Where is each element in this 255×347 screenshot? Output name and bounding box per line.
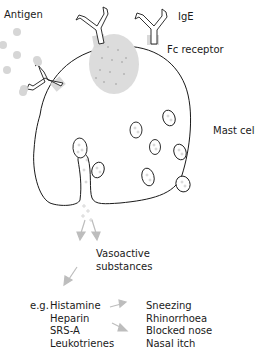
mediators-prefix: e.g.	[30, 300, 49, 312]
symptom-item: Rhinorrhoea	[146, 313, 212, 326]
released-granules	[82, 205, 92, 221]
vasoactive-label-line1: Vasoactive	[96, 248, 150, 260]
mediator-list: Histamine Heparin SRS-A Leukotrienes	[50, 300, 114, 347]
mast-cell-label: Mast cell	[213, 125, 255, 137]
symptom-item: Sneezing	[146, 300, 212, 313]
mediator-item: SRS-A	[50, 325, 114, 338]
symptom-item: Blocked nose	[146, 325, 212, 338]
symptom-item: Nasal itch	[146, 338, 212, 347]
ige-label: IgE	[178, 11, 194, 23]
antigen-label: Antigen	[4, 9, 43, 21]
bound-antigen	[20, 85, 28, 93]
mediator-item: Leukotrienes	[50, 338, 114, 347]
mediator-item: Histamine	[50, 300, 114, 313]
vasoactive-label-line2: substances	[96, 261, 152, 273]
symptom-list: Sneezing Rhinorrhoea Blocked nose Nasal …	[146, 300, 212, 347]
fc-receptor-label: Fc receptor	[167, 44, 224, 56]
mediator-item: Heparin	[50, 313, 114, 326]
bound-antigen	[34, 58, 42, 66]
